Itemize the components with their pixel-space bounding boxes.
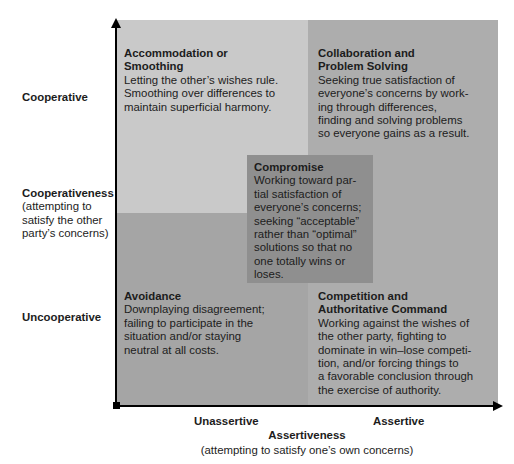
y-label-uncooperative: Uncooperative [22,311,101,324]
y-axis-line [115,26,117,408]
y-high-label: Cooperative [22,91,88,103]
compromise-title: Compromise [254,161,372,174]
avoidance-text: Avoidance Downplaying disagreement; fail… [124,290,304,357]
y-axis-title-block: Cooperativeness (attempting to satisfy t… [22,187,114,241]
collaboration-title: Collaboration and Problem Solving [318,47,496,74]
y-axis-arrow-icon [111,18,121,28]
avoidance-title: Avoidance [124,290,304,303]
y-low-label: Uncooperative [22,311,101,323]
y-label-cooperative: Cooperative [22,91,88,104]
x-label-assertive: Assertive [373,415,424,427]
avoidance-description: Downplaying disagreement; failing to par… [124,303,304,357]
competition-title: Competition and Authoritative Command [318,290,498,317]
x-axis-line [115,405,495,407]
accommodation-title: Accommodation or Smoothing [124,47,304,74]
x-label-unassertive: Unassertive [194,415,259,427]
collaboration-description: Seeking true satisfaction of everyone’s … [318,74,496,141]
x-axis-title: Assertiveness [0,429,514,441]
x-axis-subtitle: (attempting to satisfy one’s own concern… [0,444,514,456]
competition-description: Working against the wishes of the other … [318,317,498,397]
y-axis-title: Cooperativeness [22,187,114,200]
compromise-text: Compromise Working toward par- tial sati… [254,161,372,282]
accommodation-text: Accommodation or Smoothing Letting the o… [124,47,304,114]
y-axis-subtitle: (attempting to satisfy the other party’s… [22,200,114,240]
competition-text: Competition and Authoritative Command Wo… [318,290,498,397]
accommodation-description: Letting the other’s wishes rule. Smoothi… [124,74,304,114]
compromise-description: Working toward par- tial satisfaction of… [254,174,372,281]
x-axis-arrow-icon [493,401,503,411]
origin-marker [113,402,120,409]
collaboration-text: Collaboration and Problem Solving Seekin… [318,47,496,141]
